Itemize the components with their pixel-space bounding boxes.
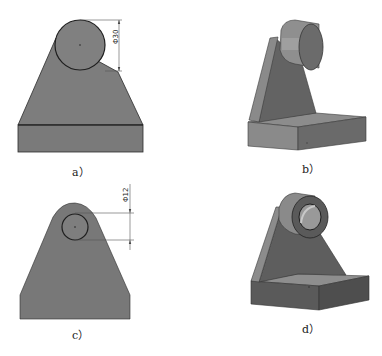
dimension-label-diameter-12: Φ12 [122, 188, 130, 202]
isometric-view-b-drawing [191, 0, 382, 178]
isometric-view-d-drawing [191, 178, 382, 356]
caption-b: b） [302, 160, 320, 176]
figure-b: b） [191, 0, 382, 178]
caption-d: d） [302, 320, 320, 336]
dimension-label-diameter-30: Φ30 [112, 30, 120, 44]
caption-a: a） [72, 163, 90, 179]
figure-d: d） [191, 178, 382, 356]
caption-c: c） [72, 326, 89, 342]
front-view-c-drawing [0, 178, 191, 356]
front-view-a-drawing [0, 0, 191, 178]
figure-c: Φ12 c） [0, 178, 191, 356]
figure-a: Φ30 a） [0, 0, 191, 178]
